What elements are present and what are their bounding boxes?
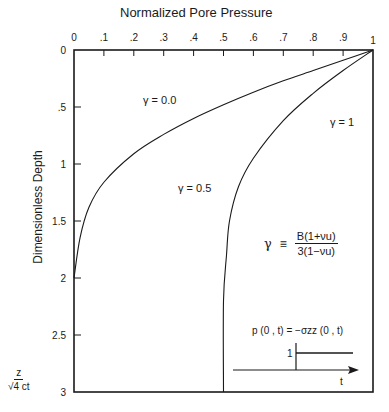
inset-step-diagram: [233, 343, 359, 374]
equiv-symbol: ≡: [280, 237, 287, 251]
inset-step-label: 1: [287, 348, 293, 359]
definition-numerator: B(1+νu): [295, 230, 338, 244]
label-gamma-0-5: γ = 0.5: [178, 182, 211, 194]
plot-area: [0, 0, 389, 412]
gamma-symbol: γ: [264, 236, 272, 251]
label-gamma-1: γ = 1: [330, 116, 354, 128]
inset-time-label: t: [340, 376, 343, 387]
label-gamma-0: γ = 0.0: [143, 94, 176, 106]
inset-equation: p (0 , t) = −σzz (0 , t): [252, 325, 343, 336]
gamma-definition: γ ≡ B(1+νu) 3(1−νu): [264, 230, 338, 257]
definition-denominator: 3(1−νu): [297, 244, 335, 257]
curve-gamma-0-5: [223, 50, 373, 392]
